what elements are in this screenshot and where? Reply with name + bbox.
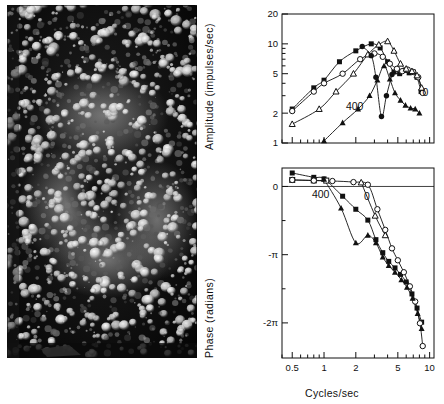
data-point-open-circle: [290, 177, 295, 182]
data-point-filled-square: [340, 194, 345, 199]
x-tick-label: 10: [424, 362, 435, 373]
y-tick-label: 20: [267, 8, 278, 19]
data-point-filled-triangle: [367, 92, 373, 98]
data-point-filled-square: [415, 306, 420, 311]
data-point-filled-triangle: [415, 310, 421, 316]
phase-y-axis-title: Phase (radians): [203, 278, 215, 358]
data-point-open-circle: [387, 61, 392, 66]
data-point-open-circle: [365, 182, 370, 187]
plot-frame: [282, 14, 434, 143]
data-point-open-circle: [395, 258, 400, 263]
data-point-open-circle: [389, 246, 394, 251]
data-point-open-circle: [420, 343, 425, 348]
data-point-open-circle: [321, 81, 326, 86]
data-point-open-circle: [417, 321, 422, 326]
data-point-filled-square: [337, 59, 342, 64]
data-point-filled-triangle: [338, 205, 344, 211]
series-curve-open-circle: [292, 180, 422, 346]
curve-annotation: 0: [364, 190, 370, 202]
data-point-filled-circle: [373, 75, 378, 80]
x-tick-label: 5: [395, 362, 400, 373]
data-point-filled-square: [353, 207, 358, 212]
amplitude-plot: Amplitude (impulses/sec) 1251020 4000: [200, 0, 444, 160]
data-point-open-circle: [290, 108, 295, 113]
data-point-filled-circle: [369, 53, 374, 58]
curve-annotation: 400: [312, 188, 330, 200]
y-tick-label: 5: [273, 68, 278, 79]
x-tick-label: 2: [353, 362, 358, 373]
x-tick-label: 0.5: [286, 362, 299, 373]
x-tick-label: 1: [321, 362, 326, 373]
series-curve-filled-triangle: [324, 179, 422, 328]
data-point-open-circle: [351, 179, 356, 184]
phase-plot: Phase (radians) 0-π-2π0.512510 4000 Cycl…: [200, 158, 444, 404]
data-point-filled-square: [353, 48, 358, 53]
y-tick-label: 0: [273, 181, 278, 192]
data-point-filled-square: [369, 41, 374, 46]
data-point-open-triangle: [372, 213, 378, 219]
data-point-open-triangle: [398, 61, 404, 67]
y-tick-label: 2: [273, 108, 278, 119]
data-point-open-circle: [394, 66, 399, 71]
y-tick-label: -π: [268, 249, 278, 260]
y-tick-label: -2π: [263, 317, 278, 328]
data-point-filled-square: [409, 291, 414, 296]
data-point-filled-circle: [360, 44, 365, 49]
figure-root: Amplitude (impulses/sec) 1251020 4000 Ph…: [0, 0, 444, 404]
phase-x-axis-title: Cycles/sec: [305, 387, 359, 399]
data-point-open-circle: [401, 270, 406, 275]
plot-frame: [282, 168, 434, 358]
data-point-filled-square: [290, 170, 295, 175]
data-point-open-circle: [330, 178, 335, 183]
curve-annotation: 0: [422, 86, 428, 98]
y-tick-label: 1: [273, 137, 278, 148]
data-point-open-circle: [311, 89, 316, 94]
data-point-open-triangle: [391, 48, 397, 54]
y-tick-label: 10: [267, 38, 278, 49]
data-point-filled-circle: [389, 72, 394, 77]
data-point-filled-circle: [379, 114, 384, 119]
retina-photomicrograph: [7, 5, 197, 358]
curve-annotation: 400: [346, 100, 364, 112]
data-point-filled-square: [365, 218, 370, 223]
data-point-filled-square: [404, 280, 409, 285]
data-point-open-circle: [375, 207, 380, 212]
data-point-open-circle: [380, 54, 385, 59]
data-point-open-triangle: [316, 106, 322, 112]
amplitude-y-axis-title: Amplitude (impulses/sec): [203, 23, 215, 150]
data-point-open-circle: [357, 57, 362, 62]
data-point-open-triangle: [289, 121, 295, 127]
data-point-open-circle: [311, 178, 316, 183]
data-point-filled-triangle: [392, 90, 398, 96]
data-point-filled-triangle: [408, 105, 414, 111]
data-point-open-circle: [340, 71, 345, 76]
data-point-open-triangle: [376, 42, 382, 48]
data-point-filled-circle: [384, 93, 389, 98]
data-point-filled-triangle: [365, 232, 371, 238]
